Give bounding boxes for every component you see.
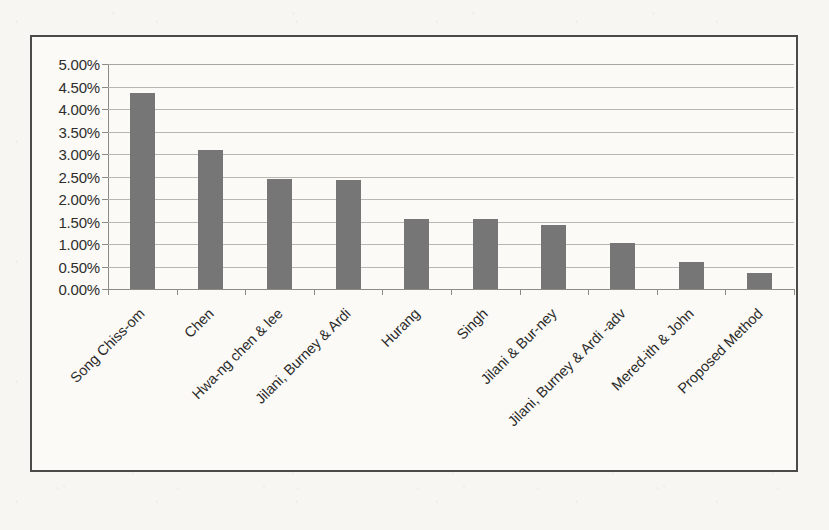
bar: [267, 179, 292, 289]
bar: [610, 243, 635, 289]
x-axis-category-label: Proposed Method: [627, 305, 766, 444]
x-axis-category-label: Jilani, Burney & Ardi: [215, 305, 354, 444]
y-axis-tick-label: 2.50%: [58, 168, 100, 185]
x-axis-tick-mark: [657, 289, 658, 295]
y-axis-tick-mark: [102, 199, 108, 200]
x-axis-category-label: Jilani, Burney & Ardi -adv: [490, 305, 629, 444]
x-axis-tick-mark: [520, 289, 521, 295]
x-axis-category-label: Mered-ith & John: [558, 305, 697, 444]
bar: [747, 273, 772, 289]
plot-area: [108, 64, 794, 289]
y-axis-tick-label: 3.50%: [58, 123, 100, 140]
x-axis-tick-mark: [245, 289, 246, 295]
y-axis-tick-mark: [102, 132, 108, 133]
y-axis-tick-label: 0.00%: [58, 281, 100, 298]
bar: [336, 180, 361, 289]
x-axis-category-label: Hurang: [284, 305, 423, 444]
y-axis-tick-label: 4.00%: [58, 101, 100, 118]
x-axis-tick-mark: [794, 289, 795, 295]
x-axis-category-label: Jilani & Bur-ney: [421, 305, 560, 444]
x-axis-tick-mark: [314, 289, 315, 295]
x-axis-category-label: Hwa-ng chen & lee: [147, 305, 286, 444]
y-axis-tick-mark: [102, 244, 108, 245]
x-axis-tick-mark: [588, 289, 589, 295]
bar: [473, 219, 498, 289]
gridline: [108, 87, 794, 88]
y-axis-tick-label: 0.50%: [58, 258, 100, 275]
gridline: [108, 64, 794, 65]
y-axis-tick-label: 1.00%: [58, 236, 100, 253]
x-axis-tick-mark: [725, 289, 726, 295]
y-axis-tick-mark: [102, 267, 108, 268]
y-axis-tick-label: 4.50%: [58, 78, 100, 95]
y-axis-tick-mark: [102, 87, 108, 88]
bar: [679, 262, 704, 289]
y-axis-tick-mark: [102, 222, 108, 223]
y-axis-tick-mark: [102, 64, 108, 65]
x-axis-tick-mark: [451, 289, 452, 295]
y-axis-tick-mark: [102, 154, 108, 155]
y-axis-tick-label: 2.00%: [58, 191, 100, 208]
y-axis-tick-label: 3.00%: [58, 146, 100, 163]
gridline: [108, 109, 794, 110]
chart-page: 5.00%4.50%4.00%3.50%3.00%2.50%2.00%1.50%…: [0, 0, 829, 530]
bar: [404, 219, 429, 289]
x-axis-category-label: Singh: [352, 305, 491, 444]
x-axis-tick-mark: [382, 289, 383, 295]
y-axis-tick-label: 5.00%: [58, 56, 100, 73]
gridline: [108, 132, 794, 133]
bar: [198, 150, 223, 290]
bar: [541, 225, 566, 289]
y-axis-tick-mark: [102, 289, 108, 290]
chart-frame: 5.00%4.50%4.00%3.50%3.00%2.50%2.00%1.50%…: [30, 35, 798, 472]
y-axis-tick-mark: [102, 177, 108, 178]
y-axis-tick-mark: [102, 109, 108, 110]
y-axis-tick-label: 1.50%: [58, 213, 100, 230]
bar: [130, 93, 155, 289]
x-axis-tick-mark: [108, 289, 109, 295]
x-axis-tick-mark: [177, 289, 178, 295]
